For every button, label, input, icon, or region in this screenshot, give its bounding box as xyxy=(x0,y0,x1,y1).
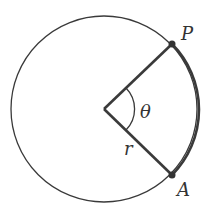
point-a-dot xyxy=(169,172,176,179)
angle-arc xyxy=(126,88,135,130)
radius-op xyxy=(104,44,172,109)
label-theta: θ xyxy=(140,101,151,122)
label-p: P xyxy=(180,23,194,44)
label-a: A xyxy=(175,179,190,200)
radius-oa xyxy=(104,109,172,175)
circle-sector-diagram: P A θ r xyxy=(0,0,208,215)
label-r: r xyxy=(124,138,134,159)
point-p-dot xyxy=(169,41,176,48)
arc-pa xyxy=(172,44,199,175)
